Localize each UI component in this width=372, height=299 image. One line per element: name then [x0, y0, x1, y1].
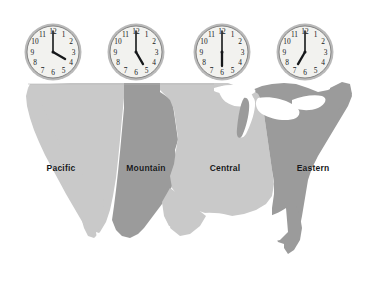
svg-text:2: 2 — [321, 37, 325, 46]
clock-central[interactable]: 121 23 45 67 89 1011 — [192, 22, 252, 82]
svg-text:9: 9 — [283, 48, 287, 57]
svg-text:7: 7 — [293, 66, 297, 75]
svg-text:9: 9 — [200, 48, 204, 57]
svg-text:5: 5 — [314, 66, 318, 75]
svg-text:11: 11 — [39, 30, 46, 39]
zone-label-pacific: Pacific — [47, 163, 76, 173]
zone-label-mountain: Mountain — [126, 163, 165, 173]
svg-text:10: 10 — [31, 37, 39, 46]
clock-face-eastern: 121 23 45 67 89 1011 — [275, 22, 335, 82]
svg-text:5: 5 — [231, 66, 235, 75]
svg-text:2: 2 — [238, 37, 242, 46]
svg-text:8: 8 — [116, 58, 120, 67]
zone-label-central: Central — [210, 163, 241, 173]
time-zone-figure: 121 23 45 67 89 1011 121 23 45 67 89 101… — [0, 0, 372, 299]
clock-pacific[interactable]: 121 23 45 67 89 1011 — [23, 22, 83, 82]
clock-mountain[interactable]: 121 23 45 67 89 1011 — [106, 22, 166, 82]
svg-text:1: 1 — [231, 30, 235, 39]
svg-text:8: 8 — [202, 58, 206, 67]
svg-text:4: 4 — [69, 58, 73, 67]
svg-text:9: 9 — [114, 48, 118, 57]
maine-tip — [330, 82, 352, 110]
svg-text:6: 6 — [220, 68, 224, 77]
svg-text:9: 9 — [31, 48, 35, 57]
svg-text:4: 4 — [238, 58, 242, 67]
svg-text:8: 8 — [285, 58, 289, 67]
svg-text:10: 10 — [200, 37, 208, 46]
svg-text:7: 7 — [124, 66, 128, 75]
clock-face-mountain: 121 23 45 67 89 1011 — [106, 22, 166, 82]
svg-text:11: 11 — [208, 30, 215, 39]
svg-text:2: 2 — [69, 37, 73, 46]
svg-text:3: 3 — [72, 48, 76, 57]
svg-text:3: 3 — [241, 48, 245, 57]
clock-center-pin — [135, 51, 138, 54]
svg-text:7: 7 — [210, 66, 214, 75]
svg-text:3: 3 — [155, 48, 159, 57]
svg-text:1: 1 — [62, 30, 66, 39]
svg-text:10: 10 — [283, 37, 291, 46]
svg-text:10: 10 — [114, 37, 122, 46]
svg-text:3: 3 — [324, 48, 328, 57]
clock-center-pin — [221, 51, 224, 54]
svg-text:7: 7 — [41, 66, 45, 75]
svg-text:6: 6 — [134, 68, 138, 77]
clock-face-central: 121 23 45 67 89 1011 — [192, 22, 252, 82]
svg-text:4: 4 — [152, 58, 156, 67]
svg-text:6: 6 — [51, 68, 55, 77]
svg-text:8: 8 — [33, 58, 37, 67]
zone-label-eastern: Eastern — [297, 163, 330, 173]
clock-eastern[interactable]: 121 23 45 67 89 1011 — [275, 22, 335, 82]
clock-face-pacific: 121 23 45 67 89 1011 — [23, 22, 83, 82]
svg-text:4: 4 — [321, 58, 325, 67]
svg-text:1: 1 — [145, 30, 149, 39]
svg-text:11: 11 — [291, 30, 298, 39]
svg-text:5: 5 — [145, 66, 149, 75]
svg-text:5: 5 — [62, 66, 66, 75]
svg-text:2: 2 — [152, 37, 156, 46]
clock-center-pin — [52, 51, 55, 54]
svg-text:11: 11 — [122, 30, 129, 39]
svg-text:6: 6 — [303, 68, 307, 77]
svg-text:1: 1 — [314, 30, 318, 39]
clock-center-pin — [304, 51, 307, 54]
